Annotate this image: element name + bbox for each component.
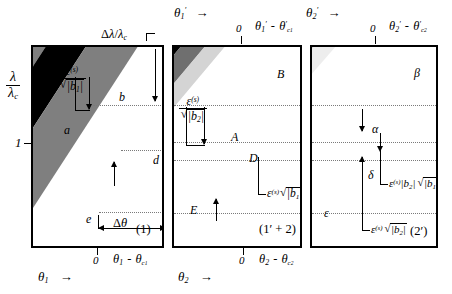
panel2-inner-label: ε(s)|b1| bbox=[267, 187, 300, 201]
panel2-label-A: A bbox=[231, 131, 238, 143]
panel3-inner-vline bbox=[380, 151, 381, 185]
panel1-gridline-top bbox=[93, 105, 162, 106]
panel-2: ε(s) |b2| A B D E ε(s)|b1| (1′ + 2) bbox=[172, 45, 302, 248]
panel1-bottom-zero-label: 0 bbox=[93, 255, 99, 266]
panel1-y-tick-label-one: 1 bbox=[15, 136, 22, 149]
panel3-gridline-1 bbox=[312, 105, 436, 106]
panel1-label-a: a bbox=[64, 124, 70, 136]
panel2-top-zero-tick-label: 0 bbox=[236, 23, 242, 34]
panel2-label-D: D bbox=[249, 152, 258, 164]
panel1-eps-fraction-label: ε(s) |b1| bbox=[58, 65, 86, 93]
panel1-tag: (1) bbox=[136, 223, 151, 236]
panel3-label-delta: δ bbox=[368, 169, 374, 181]
panel2-label-B: B bbox=[277, 68, 284, 80]
panel3-gridline-3 bbox=[312, 160, 436, 161]
panel3-gridline-2 bbox=[312, 142, 436, 143]
panel1-label-d: d bbox=[153, 154, 159, 166]
panel1-label-e: e bbox=[86, 213, 91, 225]
panel2-eps-fraction-label: ε(s) |b2| bbox=[179, 95, 207, 123]
panel3-top-zero-tick-label: 0 bbox=[370, 23, 376, 34]
panel3-outer-hline bbox=[362, 230, 370, 231]
panel3-outer-vline bbox=[362, 197, 363, 231]
panel1-delta-theta-label: Δθ bbox=[113, 217, 127, 230]
panel2-lower-arrow bbox=[216, 199, 217, 221]
panel-1-plot-area: ε(s) |b1| a b d e Δθ (1) bbox=[33, 47, 162, 246]
panel2-top-axis-label: θ1′ → bbox=[174, 6, 208, 21]
panel1-x-axis-label: θ1 → bbox=[38, 270, 73, 285]
panel3-top-axis-label: θ2′ → bbox=[306, 6, 340, 21]
panel-3: β α δ ε ε(s)|b2||b1| ε(s)|b2| (2′) bbox=[310, 45, 438, 248]
panel2-top-zero-tick bbox=[241, 36, 242, 44]
panel1-delta-lambda-leader bbox=[146, 33, 155, 41]
panel-1: ε(s) |b1| a b d e Δθ (1) bbox=[31, 45, 164, 248]
panel2-inner-vline bbox=[258, 157, 259, 195]
panel2-label-E: E bbox=[190, 204, 197, 216]
panel1-label-b: b bbox=[119, 91, 125, 103]
panel2-x-axis-label: θ2 → bbox=[178, 270, 213, 285]
panel1-delta-theta-bar bbox=[98, 228, 162, 229]
panel1-gridline-mid bbox=[121, 150, 162, 151]
panel-3-plot-area: β α δ ε ε(s)|b2||b1| ε(s)|b2| (2′) bbox=[312, 47, 436, 246]
panel3-band-light-upper bbox=[312, 47, 348, 246]
panel3-inner-label: ε(s)|b2||b1| bbox=[389, 177, 436, 191]
panel1-bottom-axis-right-label: θ1 - θc1 bbox=[113, 253, 147, 267]
panel1-gridline-low bbox=[99, 212, 162, 213]
panel1-y-axis-label: λ λc bbox=[6, 70, 20, 101]
panel1-delta-theta-cap-left bbox=[98, 215, 99, 229]
panel2-bottom-zero-label: 0 bbox=[239, 255, 245, 266]
panel3-top-zero-tick bbox=[375, 36, 376, 44]
panel2-bottom-axis-right-label: θ2 - θc2 bbox=[259, 253, 293, 267]
panel1-y-tick-one bbox=[24, 143, 32, 144]
panel3-band-black-core bbox=[312, 47, 322, 246]
panel1-delta-lambda-label: Δλ/λc bbox=[101, 28, 127, 42]
panel1-inner-arrow bbox=[114, 162, 115, 186]
panel3-label-epsilon: ε bbox=[324, 207, 329, 219]
figure-root: θ1′ → 0 θ1′ - θ′c1 θ2′ → 0 θ2′ - θ′c2 Δλ… bbox=[0, 0, 452, 294]
panel1-eps-arrow bbox=[89, 77, 90, 109]
panel3-top-axis-right-label: θ2′ - θ′c2 bbox=[389, 20, 427, 34]
panel2-tag: (1′ + 2) bbox=[259, 223, 296, 236]
panel-2-plot-area: ε(s) |b2| A B D E ε(s)|b1| (1′ + 2) bbox=[174, 47, 300, 246]
panel3-inner-hline bbox=[380, 184, 388, 185]
panel3-tag: (2′) bbox=[410, 225, 427, 238]
panel1-delta-lambda-arrow bbox=[155, 49, 156, 101]
panel2-inner-hline bbox=[258, 194, 266, 195]
panel3-label-alpha: α bbox=[372, 123, 378, 135]
panel3-arrow-alpha bbox=[380, 133, 381, 151]
panel3-gridline-4 bbox=[312, 213, 436, 214]
panel3-label-beta: β bbox=[414, 67, 420, 79]
panel3-arrow-top bbox=[362, 109, 363, 131]
panel3-outer-label: ε(s)|b2| bbox=[371, 223, 407, 237]
panel2-gridline-3 bbox=[174, 160, 300, 161]
panel3-band-mid-upper bbox=[312, 47, 334, 246]
panel2-top-axis-right-label: θ1′ - θ′c1 bbox=[255, 20, 293, 34]
